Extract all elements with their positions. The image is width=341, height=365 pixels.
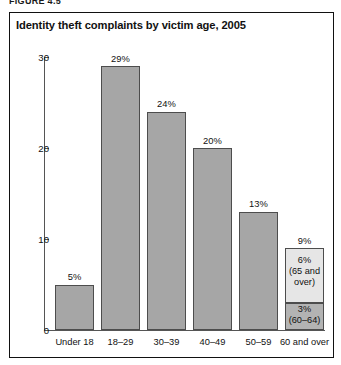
y-axis-line — [44, 57, 45, 331]
y-axis-tick-label-10: 10 — [23, 234, 49, 245]
bar-value-label-50-59: 13% — [239, 198, 278, 209]
bar-30-39 — [147, 112, 186, 330]
plot-area: 30 20 10 0 5% 29% 24% 20% 13% 9 — [0, 0, 341, 365]
segment-label-60-64-value: 3% — [285, 304, 324, 315]
segment-label-65-and-over-value: 6% — [285, 255, 324, 266]
y-axis-tick-label-20: 20 — [23, 143, 49, 154]
bar-under-18 — [55, 285, 94, 331]
bar-value-label-60-and-over: 9% — [285, 235, 324, 246]
bar-50-59 — [239, 212, 278, 330]
segment-label-60-64-name: (60–64) — [282, 315, 327, 326]
bar-value-label-18-29: 29% — [101, 53, 140, 64]
y-axis-tick-label-30: 30 — [23, 52, 49, 63]
bar-40-49 — [193, 148, 232, 330]
bar-value-label-30-39: 24% — [147, 98, 186, 109]
bar-value-label-under-18: 5% — [55, 271, 94, 282]
segment-label-65-and-over-name-line1: (65 and — [281, 266, 328, 277]
y-axis-tick-label-0: 0 — [23, 325, 49, 336]
bar-value-label-40-49: 20% — [193, 135, 232, 146]
figure-root: FIGURE 4.5 Identity theft complaints by … — [0, 0, 341, 365]
segment-label-65-and-over-name-line2: over) — [285, 277, 324, 288]
bar-18-29 — [101, 66, 140, 330]
x-axis-label-60-and-over: 60 and over — [272, 337, 337, 347]
